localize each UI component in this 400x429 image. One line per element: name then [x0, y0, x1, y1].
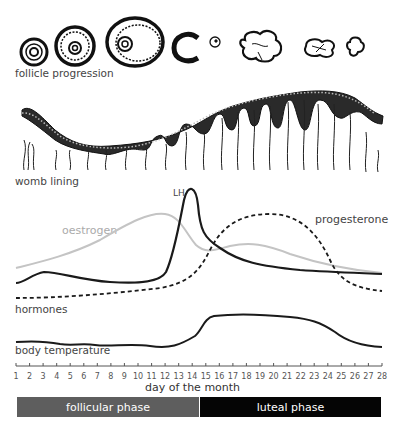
- day-label: 21: [282, 372, 292, 381]
- luteal-phase-bar: luteal phase: [200, 397, 381, 417]
- day-label: 3: [41, 372, 46, 381]
- follicle-stage-3-icon: [107, 18, 163, 66]
- day-label: 23: [309, 372, 319, 381]
- day-label: 27: [363, 372, 373, 381]
- day-label: 26: [350, 372, 360, 381]
- follicle-stage-1-icon: [21, 39, 47, 65]
- day-label: 10: [133, 372, 143, 381]
- corpus-luteum-icon: [240, 31, 281, 61]
- day-label: 15: [201, 372, 211, 381]
- follicular-phase-label: follicular phase: [66, 401, 150, 414]
- day-label: 2: [27, 372, 32, 381]
- day-label: 5: [68, 372, 73, 381]
- progesterone-curve: [16, 214, 382, 298]
- day-axis: [16, 363, 382, 366]
- day-label: 7: [95, 372, 100, 381]
- day-label: 14: [187, 372, 197, 381]
- day-label: 25: [336, 372, 346, 381]
- egg-icon: [210, 37, 220, 47]
- day-label: 18: [241, 372, 251, 381]
- follicle-icons: [21, 18, 364, 66]
- day-label: 12: [160, 372, 170, 381]
- day-label: 22: [296, 372, 306, 381]
- day-label: 1: [13, 372, 18, 381]
- oestrogen-curve: [16, 214, 382, 273]
- day-label: 20: [269, 372, 279, 381]
- day-label: 28: [377, 372, 387, 381]
- lh-curve: [16, 189, 382, 283]
- day-label: 19: [255, 372, 265, 381]
- corpus-luteum-regressing-icon: [305, 39, 334, 56]
- day-label: 8: [108, 372, 113, 381]
- day-label: 13: [174, 372, 184, 381]
- day-label: 4: [54, 372, 59, 381]
- axis-title: day of the month: [145, 381, 240, 394]
- day-label: 6: [81, 372, 86, 381]
- womb-lining-illustration: [22, 91, 383, 172]
- day-label: 11: [147, 372, 157, 381]
- luteal-phase-label: luteal phase: [257, 401, 325, 414]
- follicular-phase-bar: follicular phase: [17, 397, 199, 417]
- diagram-canvas: [0, 0, 400, 429]
- day-label: 24: [323, 372, 333, 381]
- body-temperature-curve: [16, 315, 382, 347]
- ovulation-follicle-icon: [174, 34, 198, 60]
- day-label: 16: [214, 372, 224, 381]
- follicle-stage-2-icon: [56, 27, 94, 65]
- hormone-chart: [16, 189, 382, 298]
- corpus-albicans-icon: [347, 38, 364, 56]
- day-label: 17: [228, 372, 238, 381]
- day-label: 9: [122, 372, 127, 381]
